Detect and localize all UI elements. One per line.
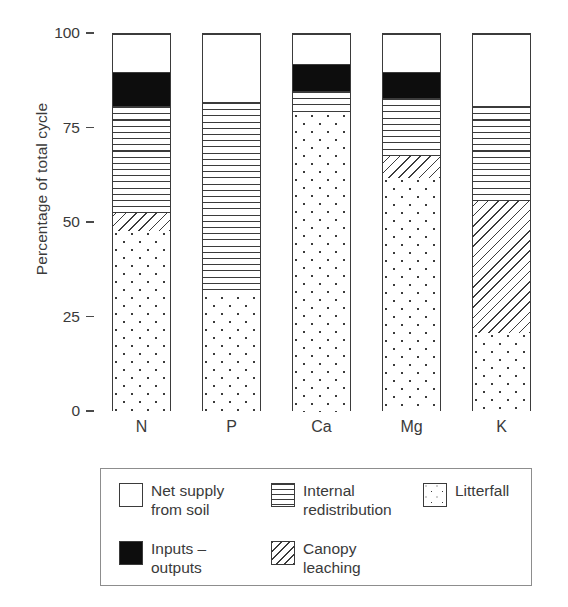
bar-segment-n-dots xyxy=(113,231,170,412)
bar-segment-p-hlines xyxy=(203,102,260,295)
x-category-label-p: P xyxy=(197,418,267,436)
bar-segment-mg-diag xyxy=(383,155,440,178)
bar-segment-n-black xyxy=(113,72,170,106)
y-tick-mark xyxy=(86,221,94,223)
y-tick-mark xyxy=(86,32,94,34)
bar-k xyxy=(472,33,531,411)
legend-item-diag: Canopyleaching xyxy=(271,540,423,586)
bar-segment-mg-black xyxy=(383,72,440,98)
y-tick-mark xyxy=(86,410,94,412)
plot-area: Percentage of total cycle 0255075100 NPC… xyxy=(0,0,568,460)
legend-item-dots: Litterfall xyxy=(423,482,519,540)
legend-swatch-diag-icon xyxy=(271,541,295,565)
bar-segment-ca-solid xyxy=(293,34,350,64)
bar-segment-n-diag xyxy=(113,212,170,231)
x-category-label-mg: Mg xyxy=(377,418,447,436)
y-tick-mark xyxy=(86,127,94,129)
bar-mg xyxy=(382,33,441,411)
x-category-label-n: N xyxy=(107,418,177,436)
x-category-label-ca: Ca xyxy=(287,418,357,436)
y-tick-label: 100 xyxy=(36,25,80,41)
legend-label: Internalredistribution xyxy=(303,482,392,520)
y-tick-label: 25 xyxy=(36,309,80,325)
legend-swatch-dots-icon xyxy=(423,483,447,507)
legend-label: Inputs –outputs xyxy=(151,540,206,578)
bar-segment-p-dots xyxy=(203,295,260,412)
legend-label: Net supplyfrom soil xyxy=(151,482,224,520)
legend-item-black: Inputs –outputs xyxy=(119,540,271,586)
y-tick-label: 0 xyxy=(36,403,80,419)
bar-n xyxy=(112,33,171,411)
y-axis-line xyxy=(0,0,2,379)
bar-segment-k-hlines xyxy=(473,106,530,201)
bar-segment-p-solid xyxy=(203,34,260,102)
bar-segment-k-solid xyxy=(473,34,530,106)
bar-segment-k-dots xyxy=(473,333,530,412)
stacked-bar-chart-figure: Percentage of total cycle 0255075100 NPC… xyxy=(0,0,568,607)
y-axis-label: Percentage of total cycle xyxy=(33,59,51,319)
bar-segment-n-solid xyxy=(113,34,170,72)
bar-p xyxy=(202,33,261,411)
bar-segment-mg-hlines xyxy=(383,98,440,155)
x-category-label-k: K xyxy=(467,418,537,436)
bar-segment-ca-hlines xyxy=(293,91,350,114)
bar-segment-mg-dots xyxy=(383,178,440,412)
legend-swatch-hlines-icon xyxy=(271,483,295,507)
bar-segment-k-diag xyxy=(473,200,530,332)
legend-swatch-black-icon xyxy=(119,541,143,565)
legend-swatch-solid-icon xyxy=(119,483,143,507)
legend-label: Canopyleaching xyxy=(303,540,361,578)
bar-ca xyxy=(292,33,351,411)
y-tick-label: 75 xyxy=(36,120,80,136)
legend-label: Litterfall xyxy=(455,482,509,501)
bar-segment-ca-dots xyxy=(293,113,350,412)
y-tick-label: 50 xyxy=(36,214,80,230)
legend: Net supplyfrom soilInternalredistributio… xyxy=(100,468,532,586)
legend-item-solid: Net supplyfrom soil xyxy=(119,482,271,540)
legend-grid: Net supplyfrom soilInternalredistributio… xyxy=(119,482,519,586)
bar-segment-mg-solid xyxy=(383,34,440,72)
y-tick-mark xyxy=(86,316,94,318)
legend-item-hlines: Internalredistribution xyxy=(271,482,423,540)
bar-segment-ca-black xyxy=(293,64,350,90)
bar-segment-n-hlines xyxy=(113,106,170,212)
